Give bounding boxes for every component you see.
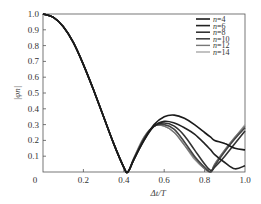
y-tick-label: 0.5 bbox=[28, 88, 40, 98]
y-tick-label: 0.9 bbox=[28, 25, 40, 35]
x-tick-label: 1.0 bbox=[239, 175, 251, 185]
x-tick-label: 0.4 bbox=[118, 175, 130, 185]
line-chart: 00.20.40.60.81.00.10.20.30.40.50.60.70.8… bbox=[0, 0, 261, 204]
y-tick-label: 1.0 bbox=[28, 9, 40, 19]
y-tick-label: 0.3 bbox=[28, 120, 40, 130]
x-tick-label: 0.2 bbox=[78, 175, 89, 185]
x-tick-label: 0 bbox=[33, 175, 38, 185]
y-tick-label: 0.4 bbox=[28, 104, 40, 114]
y-tick-label: 0.1 bbox=[28, 151, 39, 161]
chart-container: 00.20.40.60.81.00.10.20.30.40.50.60.70.8… bbox=[0, 0, 261, 204]
x-tick-label: 0.6 bbox=[159, 175, 171, 185]
y-tick-label: 0.2 bbox=[28, 135, 39, 145]
y-tick-label: 0.8 bbox=[28, 41, 40, 51]
x-axis-title: Δt/T bbox=[149, 188, 166, 198]
y-axis-title: |φn| bbox=[12, 86, 22, 100]
x-tick-label: 0.8 bbox=[199, 175, 211, 185]
y-tick-label: 0.7 bbox=[28, 56, 40, 66]
legend-label: n=14 bbox=[213, 48, 230, 57]
y-tick-label: 0.6 bbox=[28, 72, 40, 82]
legend: n=4n=6n=8n=10n=12n=14 bbox=[196, 15, 230, 57]
